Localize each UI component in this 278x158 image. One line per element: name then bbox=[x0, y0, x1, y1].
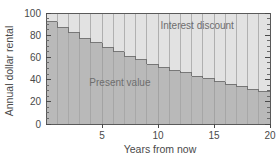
bar-segment-interest-discount bbox=[147, 13, 158, 64]
bar-segment-present-value bbox=[203, 78, 214, 124]
bar-segment-interest-discount bbox=[113, 13, 124, 52]
y-tick-label: 40 bbox=[30, 74, 42, 85]
y-tick-label: 20 bbox=[30, 96, 42, 107]
x-tick-label: 20 bbox=[264, 130, 276, 141]
bar-segment-present-value bbox=[57, 27, 68, 124]
bar-segment-present-value bbox=[192, 76, 203, 124]
bar-segment-interest-discount bbox=[57, 13, 68, 27]
bar-segment-interest-discount bbox=[136, 13, 147, 60]
bar-segment-interest-discount bbox=[236, 13, 247, 86]
bar-segment-interest-discount bbox=[80, 13, 91, 39]
y-tick-label: 100 bbox=[24, 8, 41, 19]
bar-segment-present-value bbox=[68, 33, 79, 124]
bar-segment-interest-discount bbox=[91, 13, 102, 43]
series-annotation-label: Present value bbox=[89, 77, 151, 88]
y-tick-label: 80 bbox=[30, 30, 42, 41]
series-annotation-label: Interest discount bbox=[161, 20, 235, 31]
x-tick-label: 10 bbox=[152, 130, 164, 141]
x-tick-label: 5 bbox=[99, 130, 105, 141]
bar-segment-interest-discount bbox=[102, 13, 113, 47]
bar-segment-present-value bbox=[225, 84, 236, 124]
stacked-bar-chart: 020406080100 5101520 Interest discountPr… bbox=[0, 0, 278, 158]
chart-figure: 020406080100 5101520 Interest discountPr… bbox=[0, 0, 278, 158]
bar-segment-present-value bbox=[136, 60, 147, 124]
x-tick-label: 15 bbox=[208, 130, 220, 141]
bar-segment-present-value bbox=[248, 90, 259, 124]
y-tick-label: 60 bbox=[30, 52, 42, 63]
bar-segment-present-value bbox=[236, 86, 247, 124]
bar-segment-present-value bbox=[147, 64, 158, 124]
bar-segment-present-value bbox=[124, 56, 135, 124]
bar-segment-interest-discount bbox=[248, 13, 259, 90]
bar-segment-interest-discount bbox=[46, 13, 57, 22]
bar-segment-interest-discount bbox=[68, 13, 79, 33]
bar-segment-present-value bbox=[46, 22, 57, 124]
bar-segment-present-value bbox=[158, 67, 169, 124]
bar-segment-present-value bbox=[180, 73, 191, 124]
x-axis-title: Years from now bbox=[124, 143, 197, 155]
bar-segment-interest-discount bbox=[124, 13, 135, 56]
y-tick-label: 0 bbox=[35, 119, 41, 130]
bar-segment-present-value bbox=[214, 82, 225, 124]
y-axis-title: Annual dollar rental bbox=[3, 26, 15, 116]
bar-segment-present-value bbox=[169, 71, 180, 124]
